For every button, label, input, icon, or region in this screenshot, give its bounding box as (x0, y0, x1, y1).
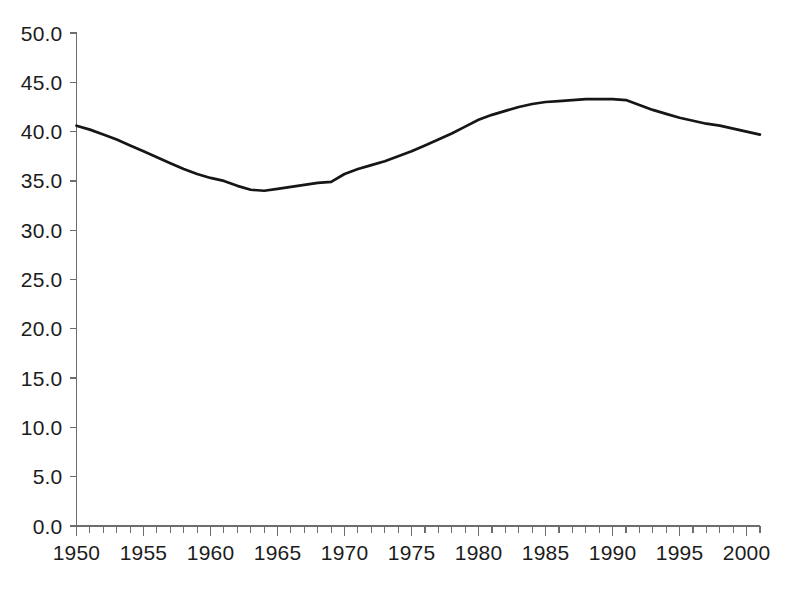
x-tick-label: 1965 (254, 541, 302, 564)
y-tick-label: 45.0 (21, 71, 63, 94)
x-tick-label: 1975 (388, 541, 436, 564)
y-tick-label: 35.0 (21, 169, 63, 192)
chart-background (0, 0, 789, 590)
chart-canvas: 0.05.010.015.020.025.030.035.040.045.050… (0, 0, 789, 590)
x-tick-label: 1955 (120, 541, 168, 564)
y-tick-label: 15.0 (21, 367, 63, 390)
y-tick-label: 25.0 (21, 268, 63, 291)
x-tick-label: 1960 (187, 541, 235, 564)
y-tick-label: 20.0 (21, 317, 63, 340)
y-tick-label: 10.0 (21, 416, 63, 439)
y-tick-label: 0.0 (33, 515, 63, 538)
x-tick-label: 1950 (53, 541, 101, 564)
y-tick-label: 30.0 (21, 219, 63, 242)
x-tick-label: 1990 (589, 541, 637, 564)
x-tick-label: 2000 (723, 541, 771, 564)
y-tick-label: 50.0 (21, 22, 63, 45)
line-chart: 0.05.010.015.020.025.030.035.040.045.050… (0, 0, 789, 590)
x-axis-tick-labels: 1950195519601965197019751980198519901995… (53, 541, 771, 564)
y-tick-label: 5.0 (33, 465, 63, 488)
y-tick-label: 40.0 (21, 120, 63, 143)
x-tick-label: 1980 (455, 541, 503, 564)
x-tick-label: 1985 (522, 541, 570, 564)
x-tick-label: 1970 (321, 541, 369, 564)
x-tick-label: 1995 (656, 541, 704, 564)
